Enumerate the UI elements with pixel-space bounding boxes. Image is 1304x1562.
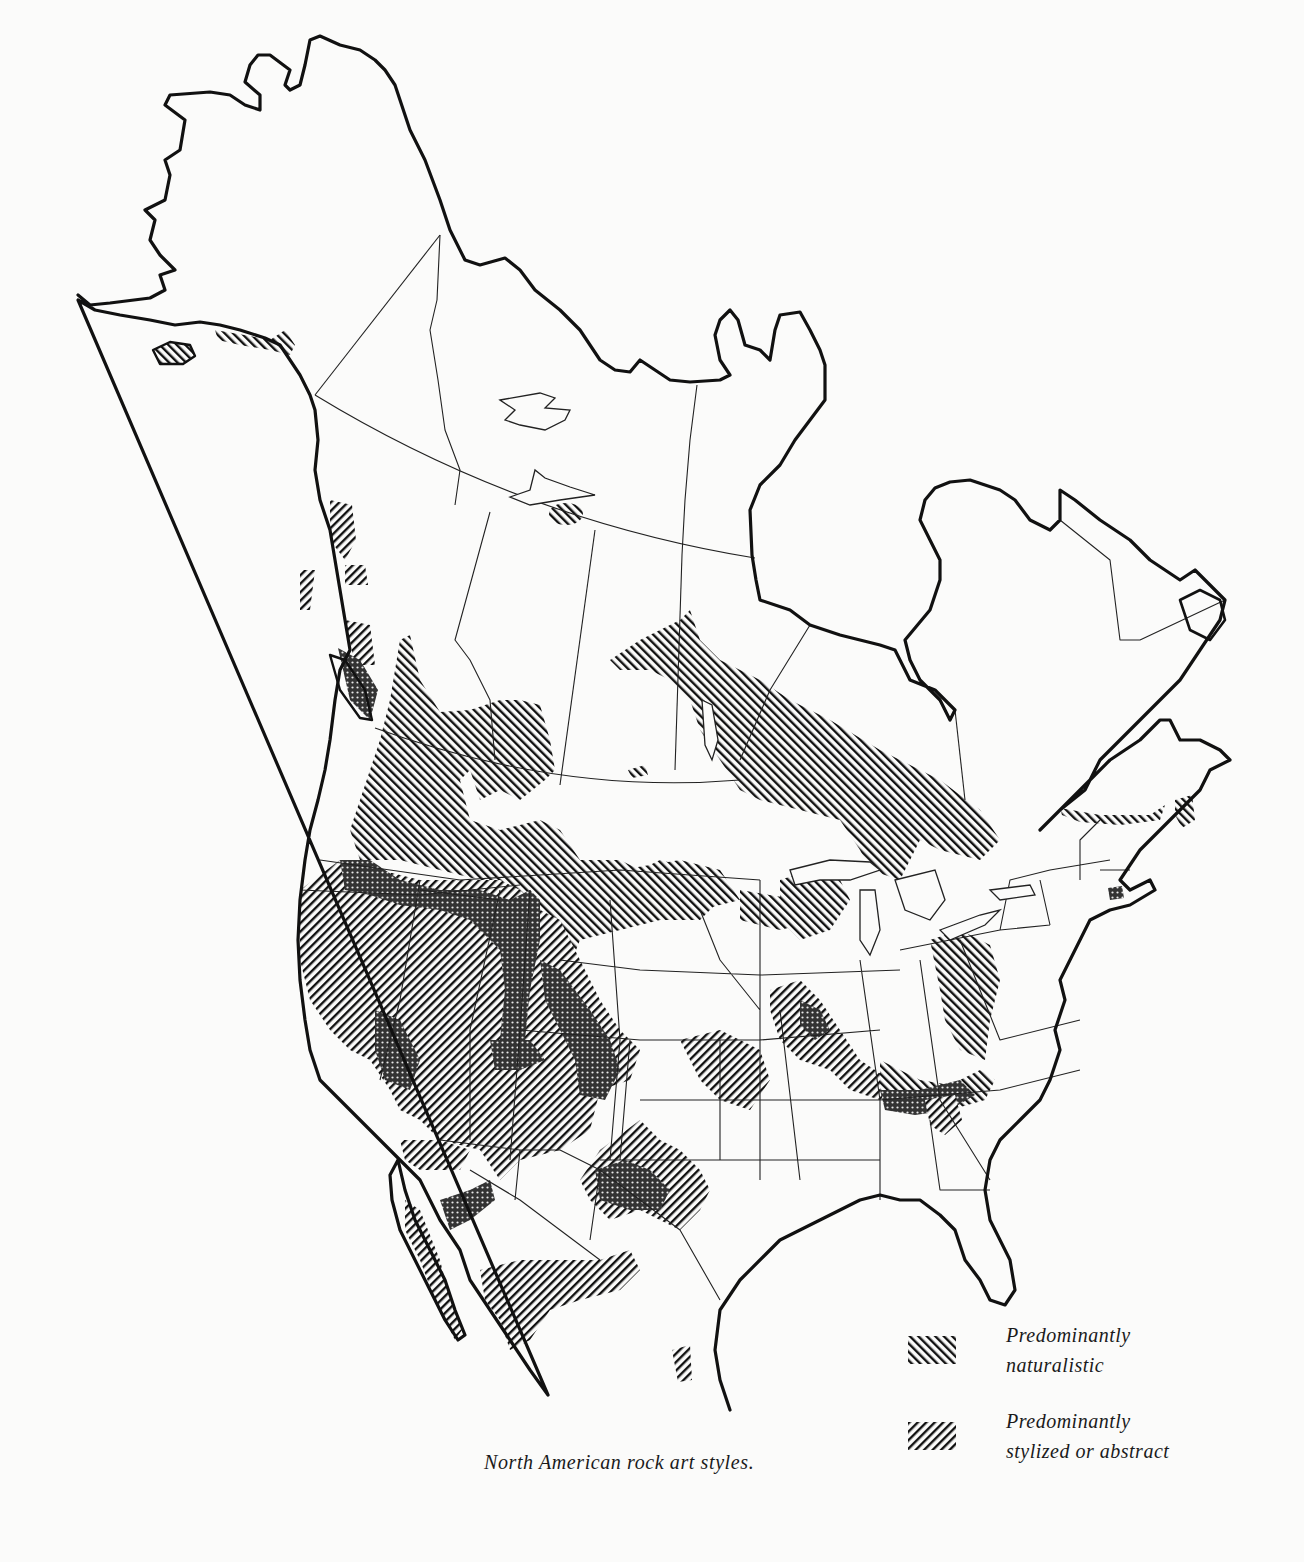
alaska-canada-border — [315, 235, 440, 395]
map-legend: Predominantly naturalistic Predominantly… — [908, 1320, 1248, 1492]
zone-texas-central — [680, 1030, 770, 1110]
zone-mass — [1108, 886, 1124, 900]
zone-nw-coast — [300, 570, 315, 610]
lake-ontario — [990, 885, 1035, 900]
zone-northern-mexico — [480, 1250, 640, 1350]
legend-line2: stylized or abstract — [1006, 1436, 1169, 1466]
zone-mexico-south — [672, 1345, 692, 1382]
zone-great-slave — [549, 503, 583, 525]
alberta-sask-border — [560, 530, 595, 785]
zones-layer — [153, 330, 1195, 1382]
map-caption: North American rock art styles. — [484, 1451, 754, 1474]
legend-line2: naturalistic — [1006, 1350, 1131, 1380]
zone-manitoba — [628, 765, 648, 778]
labrador-border — [1060, 520, 1225, 640]
lake-huron — [895, 870, 945, 920]
zone-georgia — [925, 1095, 962, 1135]
zone-ohio-valley — [930, 930, 1000, 1060]
mexico-interior — [470, 1150, 600, 1260]
lake-michigan — [860, 890, 880, 955]
nwt-nunavut-border — [682, 385, 697, 555]
legend-item-stylized: Predominantly stylized or abstract — [908, 1406, 1248, 1466]
zone-canadian-shield — [610, 610, 1000, 880]
legend-item-naturalistic: Predominantly naturalistic — [908, 1320, 1248, 1380]
great-bear-lake — [500, 393, 570, 430]
stylized-hatch-swatch — [908, 1422, 956, 1450]
great-slave-lake — [510, 470, 595, 505]
zone-nw-coast-mid — [345, 565, 368, 585]
newfoundland — [1180, 590, 1225, 640]
legend-label-stylized: Predominantly stylized or abstract — [1006, 1406, 1169, 1466]
zone-new-england — [1060, 805, 1165, 825]
naturalistic-hatch-swatch — [908, 1336, 956, 1364]
legend-label-naturalistic: Predominantly naturalistic — [1006, 1320, 1131, 1380]
legend-line1: Predominantly — [1006, 1406, 1169, 1436]
legend-line1: Predominantly — [1006, 1320, 1131, 1350]
ontario-quebec-border — [955, 710, 965, 800]
